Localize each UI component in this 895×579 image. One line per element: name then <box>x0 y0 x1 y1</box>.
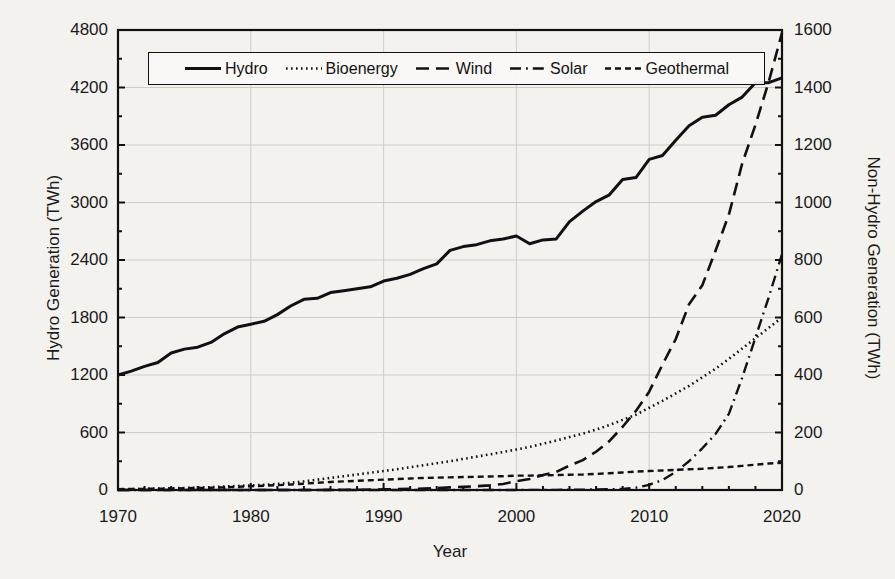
legend-item-bioenergy[interactable]: Bioenergy <box>285 61 398 77</box>
y-axis-right-title: Non-Hydro Generation (TWh) <box>863 118 883 418</box>
legend-swatch-geothermal <box>604 62 642 75</box>
x-tick-label: 2000 <box>481 507 551 527</box>
legend-swatch-solar <box>509 62 547 75</box>
x-axis-title: Year <box>118 542 782 562</box>
legend-label: Bioenergy <box>326 61 398 77</box>
legend-label: Solar <box>550 61 587 77</box>
y-tick-label-right: 200 <box>794 423 852 443</box>
y-tick-label-left: 4800 <box>50 20 108 40</box>
data-series-group <box>118 33 782 490</box>
y-tick-label-right: 400 <box>794 365 852 385</box>
x-tick-label: 2020 <box>747 507 817 527</box>
legend-swatch-bioenergy <box>285 62 323 75</box>
y-tick-label-right: 800 <box>794 250 852 270</box>
y-tick-label-left: 4200 <box>50 78 108 98</box>
y-tick-label-right: 1200 <box>794 135 852 155</box>
x-tick-label: 1980 <box>216 507 286 527</box>
y-tick-label-right: 1600 <box>794 20 852 40</box>
series-line-hydro <box>118 78 782 375</box>
y-tick-label-left: 600 <box>50 423 108 443</box>
y-tick-label-left: 2400 <box>50 250 108 270</box>
legend-swatch-wind <box>415 62 453 75</box>
y-tick-label-right: 1400 <box>794 78 852 98</box>
legend-item-hydro[interactable]: Hydro <box>184 61 268 77</box>
legend-label: Geothermal <box>645 61 729 77</box>
y-tick-label-right: 600 <box>794 308 852 328</box>
series-line-geothermal <box>118 463 782 489</box>
series-line-solar <box>118 254 782 490</box>
y-tick-label-left: 0 <box>50 480 108 500</box>
x-tick-label: 2010 <box>614 507 684 527</box>
y-tick-label-right: 1000 <box>794 193 852 213</box>
y-tick-label-left: 1200 <box>50 365 108 385</box>
x-tick-label: 1990 <box>349 507 419 527</box>
series-line-wind <box>118 33 782 490</box>
series-line-bioenergy <box>118 318 782 490</box>
legend-label: Hydro <box>225 61 268 77</box>
y-tick-label-right: 0 <box>794 480 852 500</box>
grid-lines <box>118 30 782 490</box>
chart-figure: Hydro Generation (TWh) Non-Hydro Generat… <box>0 0 895 579</box>
legend-label: Wind <box>456 61 492 77</box>
legend-swatch-hydro <box>184 62 222 75</box>
y-tick-label-left: 3000 <box>50 193 108 213</box>
legend-item-geothermal[interactable]: Geothermal <box>604 61 729 77</box>
y-tick-label-left: 1800 <box>50 308 108 328</box>
chart-canvas <box>0 0 895 579</box>
legend-item-solar[interactable]: Solar <box>509 61 587 77</box>
x-tick-label: 1970 <box>83 507 153 527</box>
y-tick-label-left: 3600 <box>50 135 108 155</box>
legend-item-wind[interactable]: Wind <box>415 61 492 77</box>
chart-legend: HydroBioenergyWindSolarGeothermal <box>148 52 765 85</box>
